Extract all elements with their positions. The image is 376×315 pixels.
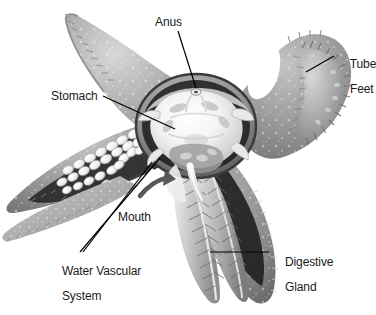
sea-star-anatomy-figure: Anus Tube Feet Stomach Mouth Water Vascu…: [0, 0, 376, 315]
label-digestive-gland-line1: Digestive: [285, 255, 333, 269]
label-mouth: Mouth: [118, 211, 151, 224]
label-tube-feet-line2: Feet: [350, 82, 374, 96]
label-tube-feet-line1: Tube: [350, 57, 376, 71]
label-tube-feet: Tube Feet: [337, 45, 376, 108]
label-digestive-gland: Digestive Gland: [272, 243, 333, 306]
label-water-vascular-line1: Water Vascular: [62, 264, 141, 278]
label-water-vascular-line2: System: [62, 289, 101, 303]
label-water-vascular-system: Water Vascular System: [49, 252, 141, 315]
label-digestive-gland-line2: Gland: [285, 280, 317, 294]
label-stomach: Stomach: [51, 90, 98, 103]
label-anus: Anus: [155, 16, 182, 29]
